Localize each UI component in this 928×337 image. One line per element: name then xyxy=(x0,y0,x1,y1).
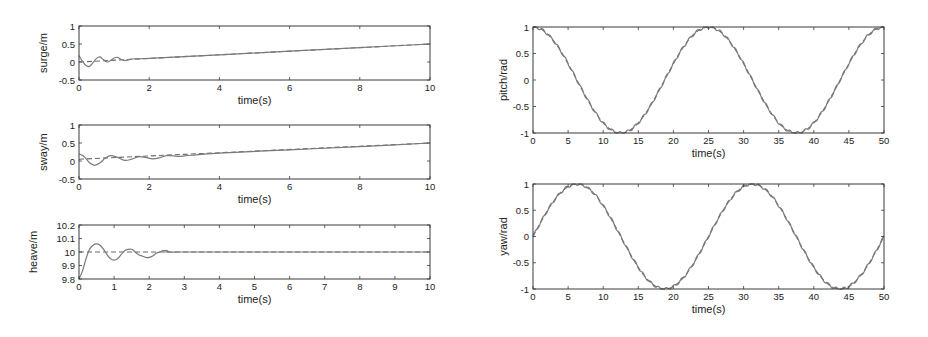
heave-ytick-label: 9.8 xyxy=(62,274,75,285)
sway-xtick-label: 0 xyxy=(76,181,81,192)
sway-xtick-label: 4 xyxy=(217,181,222,192)
surge-ytick-label: 0 xyxy=(70,57,75,68)
yaw-xtick-label: 30 xyxy=(738,291,749,302)
surge-xtick-label: 6 xyxy=(287,82,292,93)
subplot-pitch: 05101520253035404550-1-0.500.51time(s)pi… xyxy=(497,22,889,160)
yaw-xtick-label: 45 xyxy=(844,291,855,302)
pitch-reference-line xyxy=(533,27,884,133)
pitch-xtick-label: 20 xyxy=(668,135,679,146)
heave-xtick-label: 8 xyxy=(357,281,362,292)
heave-xtick-label: 9 xyxy=(392,281,397,292)
pitch-xtick-label: 10 xyxy=(598,135,609,146)
heave-xtick-label: 0 xyxy=(76,281,81,292)
sway-ytick-label: 0 xyxy=(70,156,75,167)
heave-ytick-label: 10.1 xyxy=(57,233,76,244)
heave-xtick-label: 7 xyxy=(322,281,327,292)
sway-xlabel: time(s) xyxy=(238,193,272,205)
surge-ytick-label: -0.5 xyxy=(59,75,75,86)
sway-xtick-label: 2 xyxy=(147,181,152,192)
pitch-xtick-label: 25 xyxy=(703,135,714,146)
pitch-xtick-label: 15 xyxy=(633,135,644,146)
yaw-ytick-label: 0 xyxy=(524,231,529,242)
heave-ytick-label: 10.2 xyxy=(57,220,76,231)
yaw-xtick-label: 35 xyxy=(773,291,784,302)
pitch-xtick-label: 45 xyxy=(844,135,855,146)
yaw-xtick-label: 0 xyxy=(530,291,535,302)
yaw-xtick-label: 40 xyxy=(809,291,820,302)
pitch-xtick-label: 40 xyxy=(809,135,820,146)
pitch-xlabel: time(s) xyxy=(692,147,726,159)
surge-actual-line xyxy=(79,44,430,67)
figure: 0246810-0.500.51time(s)surge/m 0246810-0… xyxy=(0,0,928,337)
yaw-xtick-label: 5 xyxy=(565,291,570,302)
surge-ytick-label: 0.5 xyxy=(62,39,75,50)
sway-actual-line xyxy=(79,143,430,165)
surge-xtick-label: 2 xyxy=(147,82,152,93)
heave-xlabel: time(s) xyxy=(238,293,272,305)
yaw-actual-line xyxy=(533,184,884,289)
yaw-xtick-label: 10 xyxy=(598,291,609,302)
yaw-xtick-label: 50 xyxy=(879,291,890,302)
surge-xtick-label: 8 xyxy=(357,82,362,93)
heave-ytick-label: 10 xyxy=(64,247,75,258)
pitch-ytick-label: 1 xyxy=(524,22,529,33)
heave-actual-line xyxy=(79,244,430,279)
sway-ytick-label: 0.5 xyxy=(62,138,75,149)
surge-xlabel: time(s) xyxy=(238,94,272,106)
heave-xtick-label: 1 xyxy=(111,281,116,292)
heave-xtick-label: 10 xyxy=(425,281,436,292)
subplot-surge: 0246810-0.500.51time(s)surge/m xyxy=(37,21,435,107)
sway-ylabel: sway/m xyxy=(37,133,49,170)
sway-ytick-label: -0.5 xyxy=(59,174,75,185)
pitch-ytick-label: -0.5 xyxy=(513,101,529,112)
sway-xtick-label: 6 xyxy=(287,181,292,192)
heave-xtick-label: 6 xyxy=(287,281,292,292)
sway-xtick-label: 8 xyxy=(357,181,362,192)
yaw-ytick-label: -0.5 xyxy=(513,257,529,268)
yaw-xtick-label: 15 xyxy=(633,291,644,302)
subplot-sway: 0246810-0.500.51time(s)sway/m xyxy=(37,120,435,206)
yaw-ytick-label: 1 xyxy=(524,179,529,190)
surge-ylabel: surge/m xyxy=(37,33,49,73)
subplot-yaw: 05101520253035404550-1-0.500.51time(s)ya… xyxy=(497,179,889,316)
pitch-actual-line xyxy=(533,27,884,133)
surge-xtick-label: 0 xyxy=(76,82,81,93)
pitch-ylabel: pitch/rad xyxy=(497,59,509,101)
pitch-ytick-label: 0 xyxy=(524,75,529,86)
surge-xtick-label: 10 xyxy=(425,82,436,93)
surge-ytick-label: 1 xyxy=(70,21,75,32)
heave-xtick-label: 5 xyxy=(252,281,257,292)
sway-xtick-label: 10 xyxy=(425,181,436,192)
sway-ytick-label: 1 xyxy=(70,120,75,131)
yaw-xtick-label: 25 xyxy=(703,291,714,302)
heave-xtick-label: 2 xyxy=(147,281,152,292)
heave-ytick-label: 9.9 xyxy=(62,260,75,271)
yaw-ytick-label: -1 xyxy=(521,284,529,295)
pitch-axes-frame xyxy=(533,27,884,133)
yaw-xtick-label: 20 xyxy=(668,291,679,302)
heave-ylabel: heave/m xyxy=(27,231,39,273)
yaw-ytick-label: 0.5 xyxy=(516,205,529,216)
pitch-xtick-label: 5 xyxy=(565,135,570,146)
heave-xtick-label: 4 xyxy=(217,281,222,292)
pitch-xtick-label: 35 xyxy=(773,135,784,146)
heave-xtick-label: 3 xyxy=(182,281,187,292)
pitch-ytick-label: -1 xyxy=(521,128,529,139)
yaw-xlabel: time(s) xyxy=(692,303,726,315)
pitch-xtick-label: 0 xyxy=(530,135,535,146)
pitch-ytick-label: 0.5 xyxy=(516,48,529,59)
surge-xtick-label: 4 xyxy=(217,82,222,93)
subplot-heave: 0123456789109.89.91010.110.2time(s)heave… xyxy=(27,220,435,306)
pitch-xtick-label: 50 xyxy=(879,135,890,146)
pitch-xtick-label: 30 xyxy=(738,135,749,146)
yaw-ylabel: yaw/rad xyxy=(497,217,509,256)
